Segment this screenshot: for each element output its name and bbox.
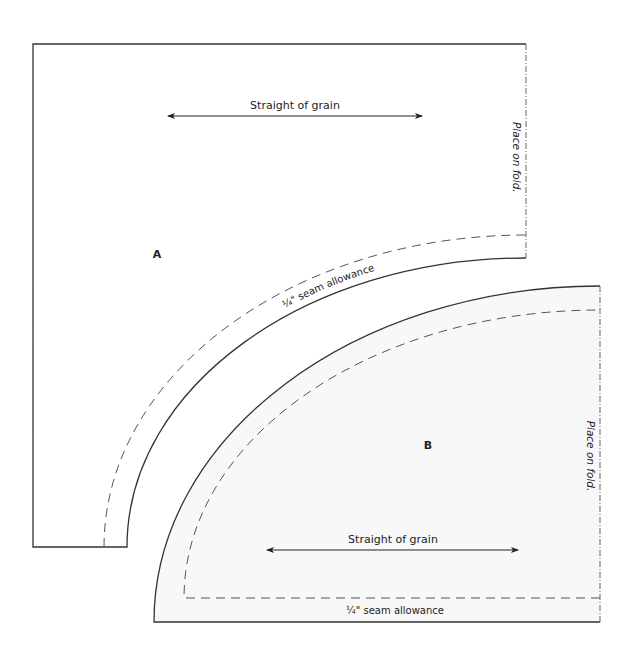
piece-a-fold-label: Place on fold.	[511, 122, 523, 193]
piece-b-seam-label: ¼" seam allowance	[346, 605, 444, 616]
piece-a-label: A	[153, 248, 162, 261]
piece-b-fold-label: Place on fold.	[585, 421, 597, 492]
pattern-diagram: Straight of grain A Place on fold. ¼" se…	[0, 0, 636, 658]
piece-a-seam-label: ¼" seam allowance	[280, 262, 375, 310]
piece-b-fill	[154, 286, 600, 622]
piece-b: Straight of grain B Place on fold. ¼" se…	[154, 286, 600, 622]
piece-b-grain-label: Straight of grain	[348, 533, 438, 546]
piece-b-label: B	[424, 439, 432, 452]
piece-a-seam-label-path: ¼" seam allowance	[280, 262, 375, 310]
piece-a-grain-label: Straight of grain	[250, 99, 340, 112]
